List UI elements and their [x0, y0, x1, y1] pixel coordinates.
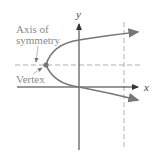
axis-label-pointer	[36, 46, 38, 62]
x-axis-label: x	[143, 81, 149, 93]
vertex-label: Vertex	[16, 73, 45, 85]
vertex-point	[43, 62, 48, 67]
axis-of-symmetry-label-line2: symmetry	[16, 34, 60, 46]
parabola-diagram: Axis of symmetry Vertex y x	[0, 0, 158, 157]
y-axis-label: y	[75, 8, 81, 20]
